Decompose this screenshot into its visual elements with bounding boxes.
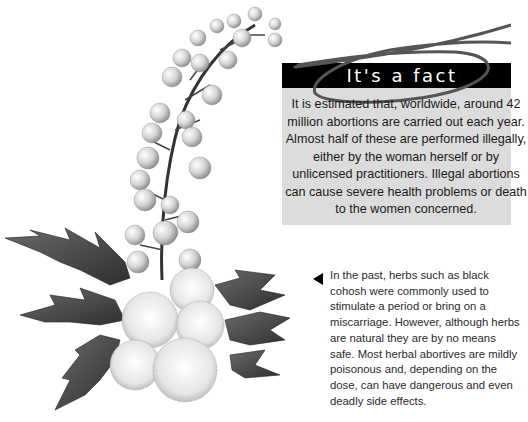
caption-text: In the past, herbs such as black cohosh … <box>330 268 520 409</box>
fact-body: It is estimated that, worldwide, around … <box>284 96 528 219</box>
black-cohosh-illustration <box>0 0 300 422</box>
left-triangle-pointer-icon <box>313 273 323 285</box>
buds <box>125 7 282 273</box>
flower-clusters <box>110 268 224 402</box>
fact-title: It's a fact <box>282 63 522 88</box>
